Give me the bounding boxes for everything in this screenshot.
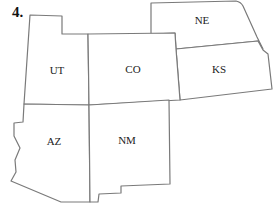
state-label-ne: NE (195, 14, 210, 26)
state-label-nm: NM (118, 134, 136, 146)
state-label-ks: KS (212, 63, 226, 75)
state-label-co: CO (125, 63, 140, 75)
state-label-az: AZ (47, 135, 62, 147)
state-nm (89, 100, 170, 202)
state-map: UT CO NE KS AZ NM (0, 0, 278, 214)
state-az (11, 104, 90, 202)
state-ut (24, 15, 89, 105)
state-label-ut: UT (50, 64, 65, 76)
